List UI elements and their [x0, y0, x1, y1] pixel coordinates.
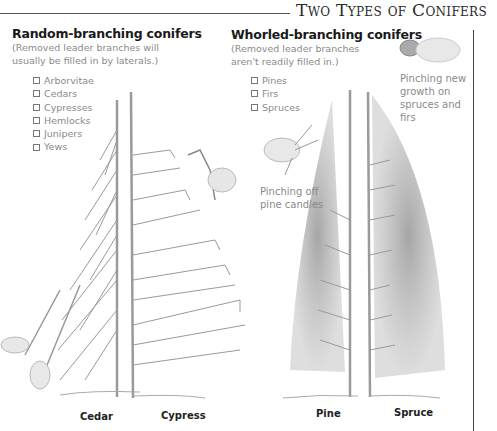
pinching-growth-caption: Pinching new growth on spruces and firs	[400, 72, 470, 124]
pine-label: Pine	[316, 408, 341, 419]
spruce-tree-illustration	[368, 92, 445, 398]
cedar-label: Cedar	[80, 411, 113, 422]
cypress-tree-illustration	[131, 92, 245, 398]
spruce-label: Spruce	[394, 407, 433, 418]
pinching-candles-hand-illustration	[264, 125, 318, 175]
conifer-illustrations	[0, 0, 497, 431]
pine-tree-illustration	[283, 90, 358, 398]
cypress-label: Cypress	[161, 410, 206, 421]
cedar-tree-illustration	[58, 100, 140, 397]
pinching-candles-caption: Pinching off pine candles	[260, 185, 330, 211]
hedge-shears-hand-illustration	[1, 285, 80, 389]
pinching-growth-hand-illustration	[400, 38, 460, 62]
pruners-hand-illustration	[188, 150, 236, 200]
